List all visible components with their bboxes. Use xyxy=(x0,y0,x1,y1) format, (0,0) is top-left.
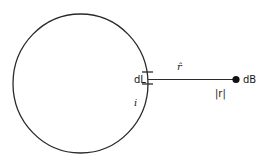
dl-label: dL xyxy=(134,75,146,85)
current-label: i xyxy=(134,98,137,108)
distance-label: |r| xyxy=(215,89,226,99)
db-label: dB xyxy=(243,75,256,85)
current-loop xyxy=(13,14,148,153)
diagram-canvas xyxy=(0,0,264,159)
unit-vector-label: r̂ xyxy=(177,62,182,72)
field-point xyxy=(232,76,239,83)
